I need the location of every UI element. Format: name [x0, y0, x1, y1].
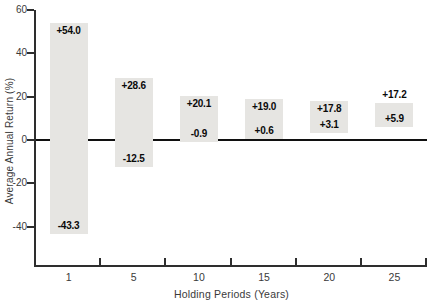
- bar-max-label: +17.2: [371, 89, 417, 101]
- y-tick-label: -40: [0, 221, 27, 233]
- x-tick: [360, 258, 362, 265]
- x-tick: [164, 258, 166, 265]
- y-tick: [27, 226, 34, 228]
- x-tick: [99, 258, 101, 265]
- y-tick-label: 40: [0, 47, 27, 59]
- y-tick: [27, 96, 34, 98]
- x-axis-title: Holding Periods (Years): [36, 288, 427, 300]
- average-annual-return-chart: Average Annual Return (%) Holding Period…: [0, 0, 430, 307]
- range-bar: [50, 23, 88, 234]
- bar-min-label: -43.3: [46, 220, 92, 232]
- zero-line: [36, 139, 427, 141]
- bar-max-label: +54.0: [46, 25, 92, 37]
- y-tick-label: -20: [0, 177, 27, 189]
- y-tick-label: 60: [0, 4, 27, 16]
- x-tick-label: 1: [49, 271, 89, 283]
- y-tick: [27, 182, 34, 184]
- x-tick: [425, 258, 427, 265]
- bar-min-label: +0.6: [241, 125, 287, 137]
- y-tick: [27, 139, 34, 141]
- x-tick: [295, 258, 297, 265]
- x-tick: [230, 258, 232, 265]
- x-axis-line: [34, 265, 427, 267]
- bar-max-label: +28.6: [111, 80, 157, 92]
- x-tick-label: 20: [309, 271, 349, 283]
- x-tick-label: 15: [244, 271, 284, 283]
- y-tick: [27, 52, 34, 54]
- y-tick-label: 20: [0, 91, 27, 103]
- bar-max-label: +19.0: [241, 101, 287, 113]
- x-tick-label: 25: [374, 271, 414, 283]
- bar-max-label: +17.8: [306, 103, 352, 115]
- y-tick: [27, 9, 34, 11]
- bar-min-label: -0.9: [176, 128, 222, 140]
- x-tick-label: 5: [114, 271, 154, 283]
- x-tick-label: 10: [179, 271, 219, 283]
- y-tick-label: 0: [0, 134, 27, 146]
- bar-max-label: +20.1: [176, 98, 222, 110]
- bar-min-label: +3.1: [306, 119, 352, 131]
- bar-min-label: +5.9: [371, 113, 417, 125]
- bar-min-label: -12.5: [111, 153, 157, 165]
